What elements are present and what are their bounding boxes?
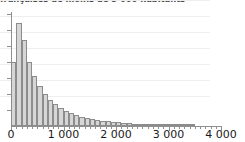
histogram-bar [190, 124, 195, 126]
histogram-bars [0, 0, 245, 142]
x-axis-tick-label: 4 000 [205, 129, 237, 141]
x-axis-tick-label: 2 000 [100, 129, 132, 141]
x-axis-tick-label: 1 000 [48, 129, 80, 141]
histogram-figure: françaises de moins de 5 000 habitants 0… [0, 0, 245, 142]
x-axis-tick-label: 0 [8, 129, 15, 141]
x-axis-tick-label: 3 000 [153, 129, 185, 141]
